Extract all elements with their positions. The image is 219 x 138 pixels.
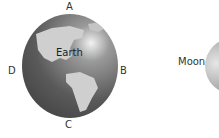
position-b-label: B <box>120 66 127 76</box>
position-d-label: D <box>8 66 16 76</box>
moon-label: Moon <box>178 57 205 67</box>
position-c-label: C <box>65 120 72 130</box>
position-a-label: A <box>66 2 73 12</box>
earth-globe <box>22 14 118 118</box>
earth-label: Earth <box>56 48 83 58</box>
continents-icon <box>22 14 118 118</box>
moon-sphere <box>205 38 219 94</box>
